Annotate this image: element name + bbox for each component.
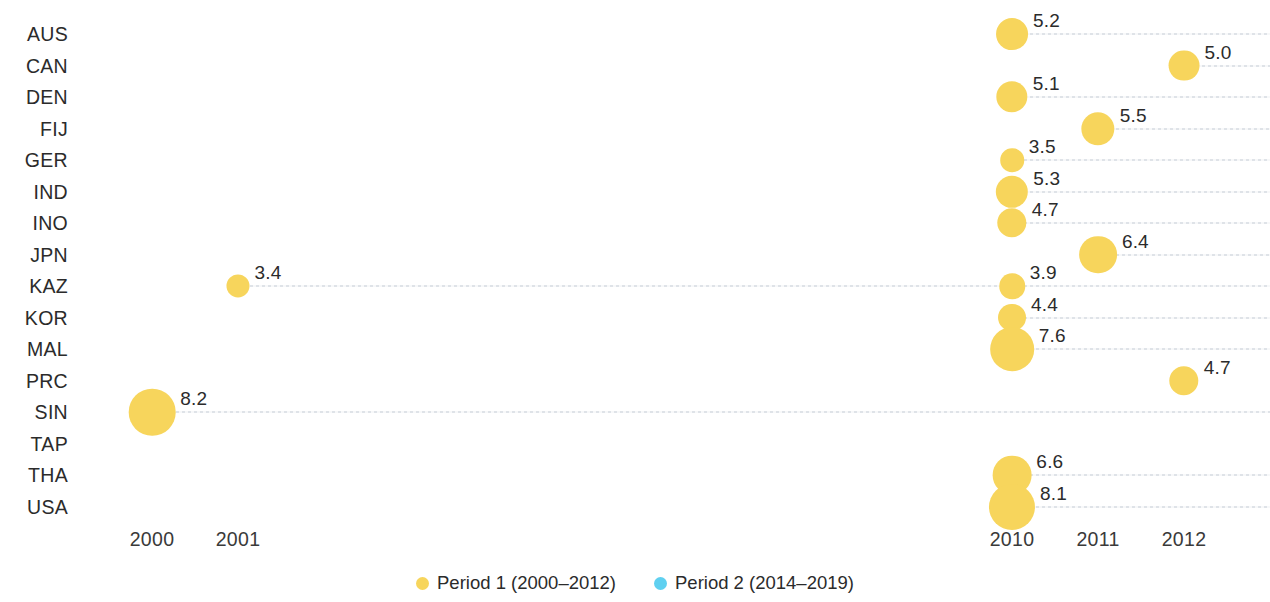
bubble-mal-period1[interactable]	[990, 327, 1034, 371]
value-label-den-period1: 5.1	[1033, 73, 1060, 95]
connector-line-kaz	[238, 285, 1270, 287]
dumbbell-bubble-chart: AUSCANDENFIJGERINDINOJPNKAZKORMALPRCSINT…	[0, 0, 1270, 602]
value-label-aus-period1: 5.2	[1033, 10, 1060, 32]
bubble-ino-period1[interactable]	[997, 208, 1026, 237]
connector-line-den	[1012, 96, 1270, 98]
legend-item-period1[interactable]: Period 1 (2000–2012)	[416, 572, 616, 594]
legend-label-period2: Period 2 (2014–2019)	[675, 572, 854, 594]
value-label-ind-period1: 5.3	[1033, 168, 1060, 190]
bubble-can-period1[interactable]	[1169, 50, 1200, 81]
bubble-kaz-period1[interactable]	[226, 274, 249, 297]
x-tick-2001: 2001	[216, 528, 261, 551]
value-label-mal-period1: 7.6	[1039, 325, 1066, 347]
value-label-sin-period1: 8.2	[180, 388, 207, 410]
connector-line-ind	[1012, 191, 1270, 193]
x-tick-2010: 2010	[990, 528, 1035, 551]
value-label-fij-period1: 5.5	[1120, 105, 1147, 127]
connector-line-ger	[1012, 159, 1270, 161]
bubble-den-period1[interactable]	[996, 81, 1027, 112]
value-label-ino-period1: 4.7	[1032, 199, 1059, 221]
connector-line-sin	[152, 411, 1270, 413]
connector-line-fij	[1098, 128, 1270, 130]
chart-legend: Period 1 (2000–2012)Period 2 (2014–2019)	[0, 572, 1270, 594]
value-label-ger-period1: 3.5	[1029, 136, 1056, 158]
connector-line-mal	[1012, 348, 1270, 350]
value-label-can-period1: 5.0	[1204, 42, 1231, 64]
legend-item-period2[interactable]: Period 2 (2014–2019)	[654, 572, 854, 594]
legend-swatch-period1-icon	[416, 577, 429, 590]
bubble-kaz-period1[interactable]	[999, 273, 1025, 299]
bubble-jpn-period1[interactable]	[1079, 236, 1117, 274]
bubble-ger-period1[interactable]	[1000, 148, 1024, 172]
value-label-usa-period1: 8.1	[1040, 483, 1067, 505]
value-label-jpn-period1: 6.4	[1122, 231, 1149, 253]
bubble-ind-period1[interactable]	[996, 175, 1028, 207]
connector-line-jpn	[1098, 254, 1270, 256]
connector-line-tha	[1012, 474, 1270, 476]
bubble-fij-period1[interactable]	[1081, 112, 1114, 145]
x-tick-2011: 2011	[1076, 528, 1119, 551]
x-tick-2012: 2012	[1162, 528, 1207, 551]
x-tick-2000: 2000	[130, 528, 175, 551]
value-label-tha-period1: 6.6	[1036, 451, 1063, 473]
connector-line-usa	[1012, 506, 1270, 508]
value-label-kaz-period1: 3.9	[1030, 262, 1057, 284]
value-label-prc-period1: 4.7	[1204, 357, 1231, 379]
legend-swatch-period2-icon	[654, 577, 667, 590]
connector-line-kor	[1012, 317, 1270, 319]
bubble-aus-period1[interactable]	[996, 18, 1028, 50]
bubble-usa-period1[interactable]	[989, 483, 1035, 529]
value-label-kor-period1: 4.4	[1031, 294, 1058, 316]
legend-label-period1: Period 1 (2000–2012)	[437, 572, 616, 594]
bubble-prc-period1[interactable]	[1169, 366, 1198, 395]
connector-line-aus	[1012, 33, 1270, 35]
value-label-kaz-period1: 3.4	[255, 262, 282, 284]
bubble-sin-period1[interactable]	[129, 389, 176, 436]
plot-area: 5.25.05.15.53.55.34.76.43.43.94.47.64.78…	[0, 0, 1270, 525]
x-axis: 2000200120102011201220142015201620182019	[0, 528, 1270, 560]
connector-line-ino	[1012, 222, 1270, 224]
